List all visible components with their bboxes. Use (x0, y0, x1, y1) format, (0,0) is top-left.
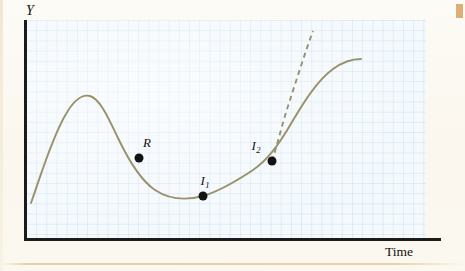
curve-layer (0, 0, 465, 271)
counterfactual-path-curve (272, 31, 313, 161)
y-axis-label: Y (26, 3, 34, 19)
marker-dot-i1[interactable] (199, 192, 208, 201)
marker-label-i1-sub: 1 (205, 180, 209, 190)
marker-label-i2: I2 (252, 138, 261, 154)
marker-label-i2-sub: 2 (256, 145, 260, 155)
figure-page: R I1 I2 Y Time (0, 0, 465, 271)
actual-path-curve (31, 59, 361, 203)
marker-label-i1: I1 (201, 173, 210, 189)
marker-label-i1-base: I (201, 173, 206, 188)
x-axis-label: Time (385, 244, 413, 260)
marker-dot-r[interactable] (135, 154, 144, 163)
marker-label-i2-base: I (252, 138, 257, 153)
marker-label-r: R (143, 135, 151, 151)
marker-dot-i2[interactable] (268, 157, 277, 166)
